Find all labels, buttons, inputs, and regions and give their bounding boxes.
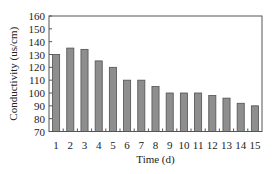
- bar-day-1: [53, 55, 60, 132]
- bar-day-7: [138, 80, 145, 131]
- x-tick-label: 13: [221, 139, 233, 151]
- bar-day-10: [180, 93, 187, 132]
- bar-chart: 708090100110120130140150160 123456789101…: [0, 0, 275, 174]
- y-tick-label: 110: [29, 74, 46, 86]
- bar-day-8: [152, 87, 159, 132]
- x-tick-label: 2: [68, 139, 74, 151]
- x-tick-label: 6: [124, 139, 130, 151]
- x-axis-title: Time (d): [136, 153, 175, 166]
- x-tick-label: 8: [153, 139, 159, 151]
- x-tick-label: 11: [193, 139, 204, 151]
- bar-day-5: [109, 67, 116, 131]
- y-tick-label: 90: [34, 100, 46, 112]
- bars: [53, 48, 259, 131]
- x-tick-label: 12: [207, 139, 218, 151]
- x-tick-label: 15: [249, 139, 261, 151]
- x-tick-label: 10: [178, 139, 190, 151]
- y-tick-label: 120: [29, 61, 46, 73]
- y-tick-label: 70: [34, 126, 46, 138]
- x-tick-label: 5: [110, 139, 116, 151]
- bar-day-15: [251, 106, 258, 132]
- y-axis-title: Conductivity (us/cm): [7, 27, 20, 121]
- x-tick-label: 7: [139, 139, 145, 151]
- y-tick-label: 80: [34, 113, 46, 125]
- y-tick-label: 160: [29, 10, 46, 22]
- x-tick-label: 1: [53, 139, 59, 151]
- chart-canvas: 708090100110120130140150160 123456789101…: [0, 0, 275, 174]
- bar-day-4: [95, 61, 102, 132]
- y-tick-label: 150: [29, 23, 46, 35]
- y-tick-label: 130: [29, 49, 46, 61]
- bar-day-2: [67, 48, 74, 131]
- x-tick-label: 9: [167, 139, 173, 151]
- y-tick-label: 100: [29, 87, 46, 99]
- y-axis: 708090100110120130140150160: [29, 10, 53, 138]
- bar-day-3: [81, 49, 88, 131]
- bar-day-14: [237, 103, 244, 131]
- y-tick-label: 140: [29, 36, 46, 48]
- bar-day-13: [223, 98, 230, 131]
- bar-day-11: [195, 93, 202, 132]
- x-tick-label: 3: [82, 139, 88, 151]
- x-tick-label: 4: [96, 139, 102, 151]
- bar-day-9: [166, 93, 173, 132]
- x-tick-label: 14: [235, 139, 247, 151]
- bar-day-6: [124, 80, 131, 131]
- bar-day-12: [209, 96, 216, 132]
